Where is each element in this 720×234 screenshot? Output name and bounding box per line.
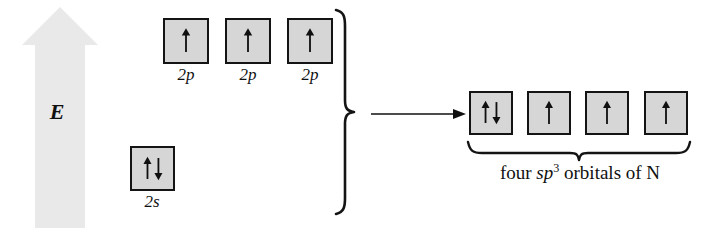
sp3-caption-prefix: four: [500, 162, 536, 183]
orbital-energy-diagram: E 2p 2p 2p 2s: [0, 0, 720, 234]
orbital-box-sp3-4: [644, 91, 688, 135]
orbital-box-2p-3: [287, 18, 333, 64]
spin-up-arrow-icon: [646, 93, 686, 133]
orbital-box-2p-1: [163, 18, 209, 64]
spin-up-arrow-icon: [165, 20, 207, 62]
orbital-box-2s: [130, 146, 175, 191]
spin-up-down-arrow-icon: [132, 148, 173, 189]
orbital-label-2p-3: 2p: [282, 66, 338, 83]
spin-up-arrow-icon: [227, 20, 269, 62]
sp3-underbrace: [466, 140, 692, 162]
spin-up-down-arrow-icon: [471, 93, 511, 133]
spin-up-arrow-icon: [587, 93, 627, 133]
orbital-label-2p-2: 2p: [220, 66, 276, 83]
grouping-brace: [333, 8, 359, 216]
energy-axis-label: E: [40, 101, 74, 123]
orbital-box-2p-2: [225, 18, 271, 64]
orbital-label-2p-1: 2p: [158, 66, 214, 83]
orbital-label-2s: 2s: [124, 193, 180, 210]
transformation-arrow: [371, 100, 471, 128]
sp3-caption-suffix: orbitals of N: [559, 162, 660, 183]
spin-up-arrow-icon: [529, 93, 569, 133]
orbital-box-sp3-3: [585, 91, 629, 135]
orbital-box-sp3-2: [527, 91, 571, 135]
sp3-caption: four sp3 orbitals of N: [450, 163, 710, 184]
spin-up-arrow-icon: [289, 20, 331, 62]
orbital-box-sp3-1: [469, 91, 513, 135]
sp3-caption-orbital-type: sp: [536, 162, 553, 183]
